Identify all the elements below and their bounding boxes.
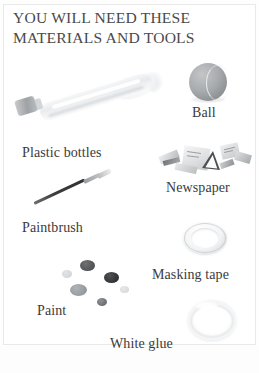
paint-blob-4-icon [97,298,107,306]
newspaper-scrap-6-icon [234,151,252,164]
label-white-glue: White glue [110,336,173,352]
white-glue-icon [188,300,236,340]
label-ball: Ball [192,105,216,121]
bottle-cap-icon [14,95,38,116]
paint-blob-1-icon [80,260,95,271]
materials-and-tools-page: YOU WILL NEED THESE MATERIALS AND TOOLS … [0,0,259,373]
newspaper-icon [157,143,255,179]
label-plastic-bottles: Plastic bottles [22,145,102,161]
ball-icon [189,63,227,101]
page-title-line-2: MATERIALS AND TOOLS [13,28,251,48]
label-paint: Paint [37,303,66,319]
paint-blob-5-icon [62,270,72,278]
newspaper-fold-inner-icon [205,154,218,168]
ball-seam-icon [206,65,230,101]
paintbrush-handle-icon [33,178,85,204]
masking-tape-hole-icon [191,228,219,248]
paint-blob-2-icon [104,272,119,283]
paint-blob-6-icon [120,286,129,293]
page-title: YOU WILL NEED THESE MATERIALS AND TOOLS [13,8,251,48]
plastic-bottle-icon [16,62,164,124]
white-glue-highlight-icon [196,302,218,310]
newspaper-scrap-7-icon [219,159,234,169]
paint-icon [62,258,144,316]
paintbrush-icon [36,178,118,220]
label-newspaper: Newspaper [166,180,230,196]
page-title-line-1: YOU WILL NEED THESE [13,8,251,28]
paint-blob-3-icon [70,284,87,296]
label-paintbrush: Paintbrush [22,220,83,236]
label-masking-tape: Masking tape [152,267,229,283]
masking-tape-icon [183,222,227,254]
